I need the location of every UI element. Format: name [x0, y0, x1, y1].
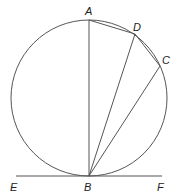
- chord-DB: [89, 34, 135, 176]
- geometry-figure: ADCBEF: [0, 0, 180, 196]
- point-labels: ADCBEF: [10, 5, 170, 193]
- point-label-c: C: [162, 54, 170, 66]
- chord-AD: [89, 20, 135, 34]
- point-label-b: B: [84, 181, 91, 193]
- point-label-e: E: [10, 181, 18, 193]
- point-label-d: D: [133, 21, 141, 33]
- point-label-a: A: [84, 5, 92, 17]
- chord-CB: [89, 66, 160, 176]
- chord-DC: [135, 34, 160, 66]
- segments: [16, 20, 162, 176]
- point-label-f: F: [157, 181, 165, 193]
- circle-tangent-diagram: ADCBEF: [0, 0, 180, 196]
